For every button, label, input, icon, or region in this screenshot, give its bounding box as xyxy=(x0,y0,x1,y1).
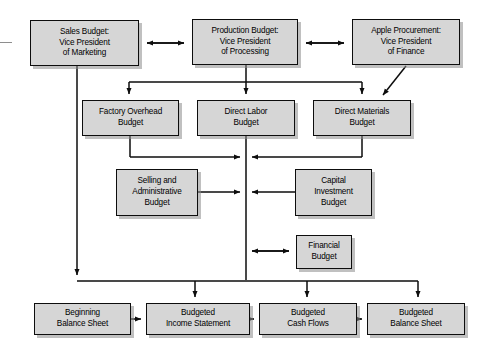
budget-flowchart: Sales Budget: Vice President of Marketin… xyxy=(0,0,488,359)
edge-production-to-manufacturing-budgets xyxy=(129,65,362,94)
node-production-budget: Production Budget: Vice President of Pro… xyxy=(192,19,298,65)
node-factory-overhead-budget-label: Factory Overhead Budget xyxy=(97,107,164,129)
node-beginning-balance-sheet-label: Beginning Balance Sheet xyxy=(55,308,110,330)
node-budgeted-cash-flows: Budgeted Cash Flows xyxy=(259,303,357,335)
node-apple-procurement-label: Apple Procurement: Vice President of Fin… xyxy=(369,26,443,58)
node-beginning-balance-sheet: Beginning Balance Sheet xyxy=(34,303,131,335)
node-direct-materials-budget-label: Direct Materials Budget xyxy=(333,107,391,129)
node-budgeted-income-statement: Budgeted Income Statement xyxy=(146,303,250,335)
node-financial-budget: Financial Budget xyxy=(296,235,352,269)
scan-artifact-mark xyxy=(0,42,12,43)
edge-bus-to-bottom-statements xyxy=(195,281,418,297)
node-budgeted-income-statement-label: Budgeted Income Statement xyxy=(164,308,232,330)
node-direct-labor-budget-label: Direct Labor Budget xyxy=(223,107,270,129)
edge-apple-procurement-to-direct-materials xyxy=(383,66,406,95)
node-budgeted-balance-sheet: Budgeted Balance Sheet xyxy=(367,303,465,335)
edge-direct-materials-to-bus xyxy=(252,136,362,157)
edge-factory-overhead-to-bus xyxy=(130,136,240,157)
node-financial-budget-label: Financial Budget xyxy=(306,241,341,263)
node-direct-materials-budget: Direct Materials Budget xyxy=(313,100,411,136)
node-capital-investment-budget: Capital Investment Budget xyxy=(295,169,372,216)
node-factory-overhead-budget: Factory Overhead Budget xyxy=(82,100,179,136)
node-budgeted-cash-flows-label: Budgeted Cash Flows xyxy=(285,308,330,330)
node-sales-budget-label: Sales Budget: Vice President of Marketin… xyxy=(57,27,112,59)
node-selling-and-administrative-budget: Selling and Administrative Budget xyxy=(116,169,198,216)
node-budgeted-balance-sheet-label: Budgeted Balance Sheet xyxy=(388,308,443,330)
node-selling-and-administrative-budget-label: Selling and Administrative Budget xyxy=(130,176,183,208)
node-capital-investment-budget-label: Capital Investment Budget xyxy=(312,176,355,208)
node-direct-labor-budget: Direct Labor Budget xyxy=(197,100,295,136)
node-production-budget-label: Production Budget: Vice President of Pro… xyxy=(210,26,281,58)
node-apple-procurement: Apple Procurement: Vice President of Fin… xyxy=(352,19,460,65)
node-sales-budget: Sales Budget: Vice President of Marketin… xyxy=(30,20,139,66)
